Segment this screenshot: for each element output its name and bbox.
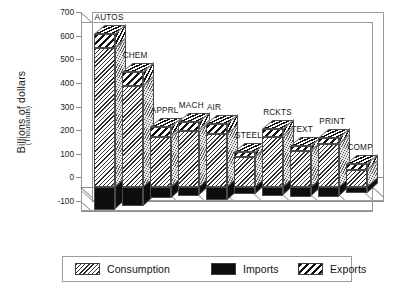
- bar-front-face: [262, 129, 283, 136]
- y-axis-tick-label: 0: [30, 173, 74, 181]
- bar-category-label: TEXT: [291, 125, 313, 134]
- bar-category-label: RCKTS: [263, 108, 292, 117]
- y-axis-tick-label: 700: [30, 8, 74, 16]
- y-axis-tick-label: 400: [30, 79, 74, 87]
- bar-segment-exports[interactable]: [318, 138, 339, 144]
- legend-swatch: [211, 263, 236, 275]
- bar-front-face: [122, 187, 143, 206]
- bar-segment-consumption[interactable]: [206, 134, 227, 187]
- y-axis-tick-label: 100: [30, 150, 74, 158]
- bar-category-label: STEEL: [235, 131, 262, 140]
- bar-front-face: [94, 187, 115, 209]
- bar-front-face: [262, 137, 283, 188]
- bar-segment-consumption[interactable]: [290, 151, 311, 188]
- bar-segment-exports[interactable]: [178, 122, 199, 130]
- bar-front-face: [150, 137, 171, 188]
- bar-front-face: [150, 187, 171, 198]
- bar-segment-imports[interactable]: [262, 187, 283, 195]
- bar-segment-exports[interactable]: [150, 127, 171, 136]
- bar-category-label: COMP: [347, 143, 372, 152]
- bar-front-face: [206, 124, 227, 135]
- y-axis-tick-label: 600: [30, 32, 74, 40]
- bar-front-face: [290, 151, 311, 188]
- bar-front-face: [318, 144, 339, 188]
- bar-segment-consumption[interactable]: [94, 48, 115, 187]
- bar-segment-imports[interactable]: [346, 187, 367, 193]
- bar-segment-exports[interactable]: [122, 72, 143, 86]
- bar-segment-consumption[interactable]: [318, 144, 339, 188]
- y-axis-tick-label: 200: [30, 126, 74, 134]
- bar-category-label: MACH: [179, 101, 204, 110]
- bar-segment-consumption[interactable]: [234, 157, 255, 188]
- bar-front-face: [94, 48, 115, 187]
- bar-segment-imports[interactable]: [94, 187, 115, 209]
- bar-front-face: [318, 187, 339, 196]
- bar-front-face: [178, 131, 199, 188]
- bar-segment-exports[interactable]: [234, 152, 255, 157]
- plot-area: 7006005004003002001000-100 AUTOSCHEMAPPR…: [36, 12, 392, 234]
- bar-front-face: [234, 152, 255, 157]
- legend-label: Exports: [330, 263, 366, 275]
- legend-item[interactable]: Exports: [298, 263, 366, 275]
- bar-segment-consumption[interactable]: [150, 137, 171, 188]
- bar-front-face: [318, 138, 339, 144]
- y-axis-line: [81, 12, 82, 201]
- bar-segment-imports[interactable]: [178, 187, 199, 195]
- bar-front-face: [234, 157, 255, 188]
- bar-segment-exports[interactable]: [346, 164, 367, 170]
- bar-segment-exports[interactable]: [206, 124, 227, 135]
- bar-front-face: [150, 127, 171, 136]
- bar-front-face: [178, 187, 199, 195]
- bar-segment-exports[interactable]: [94, 34, 115, 48]
- bar-front-face: [122, 72, 143, 86]
- y-axis-title-group: Billions of dollars (Thousands): [0, 0, 34, 240]
- bar-front-face: [234, 187, 255, 194]
- bar-segment-consumption[interactable]: [346, 170, 367, 188]
- bar-segment-imports[interactable]: [206, 187, 227, 200]
- legend-swatch: [298, 263, 323, 275]
- legend-item[interactable]: Consumption: [75, 263, 170, 275]
- bar-front-face: [290, 187, 311, 196]
- bar-category-label: PRINT: [319, 117, 345, 126]
- bar-segment-imports[interactable]: [122, 187, 143, 206]
- bar-segment-consumption[interactable]: [122, 86, 143, 188]
- chart-legend: ConsumptionImportsExports: [62, 256, 352, 282]
- bar-segment-exports[interactable]: [290, 146, 311, 151]
- bar-front-face: [346, 164, 367, 170]
- legend-label: Consumption: [107, 263, 170, 275]
- bar-segment-imports[interactable]: [318, 187, 339, 196]
- legend-label: Imports: [243, 263, 279, 275]
- bar-category-label: APPRL: [151, 106, 179, 115]
- bar-front-face: [262, 187, 283, 195]
- legend-item[interactable]: Imports: [211, 263, 279, 275]
- bar-segment-imports[interactable]: [150, 187, 171, 198]
- bar-front-face: [122, 86, 143, 188]
- bar-front-face: [178, 122, 199, 130]
- bar-segment-imports[interactable]: [290, 187, 311, 196]
- chart-figure: Billions of dollars (Thousands) 70060050…: [0, 0, 404, 297]
- y-axis-tick-label: 500: [30, 55, 74, 63]
- floor-line-front: [81, 211, 373, 212]
- y-axis-tick-label: 300: [30, 103, 74, 111]
- y-axis-tick-label: -100: [30, 197, 74, 205]
- bar-front-face: [94, 34, 115, 48]
- bar-front-face: [206, 187, 227, 200]
- bar-front-face: [206, 134, 227, 187]
- bar-category-label: CHEM: [123, 51, 148, 60]
- bar-category-label: AIR: [207, 103, 221, 112]
- bar-segment-exports[interactable]: [262, 129, 283, 136]
- bar-front-face: [290, 146, 311, 151]
- bar-front-face: [346, 187, 367, 193]
- bar-front-face: [346, 170, 367, 188]
- bar-category-label: AUTOS: [95, 13, 124, 22]
- bar-segment-consumption[interactable]: [262, 137, 283, 188]
- legend-swatch: [75, 263, 100, 275]
- bar-segment-imports[interactable]: [234, 187, 255, 194]
- bar-segment-consumption[interactable]: [178, 131, 199, 188]
